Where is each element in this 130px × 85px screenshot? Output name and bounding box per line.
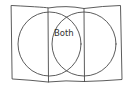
divider-left: [48, 8, 49, 82]
venn-diagram: Both: [0, 0, 130, 85]
overlap-label: Both: [54, 28, 74, 38]
circles: [18, 12, 116, 76]
divider-right: [84, 9, 85, 82]
left-circle: [18, 12, 81, 76]
